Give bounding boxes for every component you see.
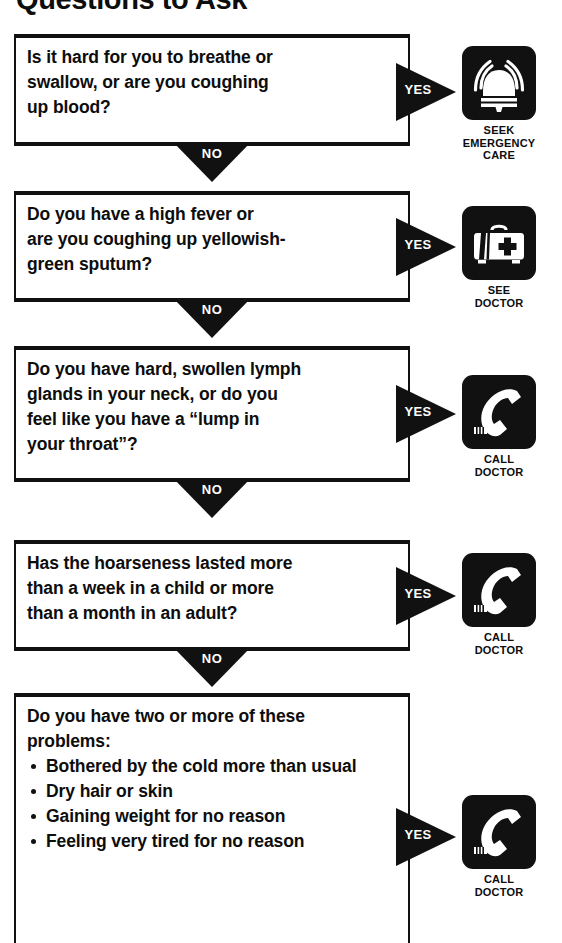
outcome-caption: SEE DOCTOR [443, 284, 555, 309]
question-text-3: Do you have hard, swollen lymph glands i… [16, 350, 408, 463]
box-top-rule [14, 693, 410, 697]
question-line: glands in your neck, or do you [27, 382, 396, 407]
yes-label: YES [398, 587, 438, 601]
question-line: green sputum? [27, 252, 396, 277]
caption-line: CALL [443, 453, 555, 466]
question-text-5: Do you have two or more of these problem… [16, 697, 408, 860]
no-label: NO [173, 302, 251, 317]
question-line: Do you have hard, swollen lymph [27, 357, 396, 382]
question-box-1: Is it hard for you to breathe or swallow… [14, 38, 410, 142]
yes-label: YES [398, 828, 438, 842]
no-arrow-2[interactable]: NO [173, 298, 251, 338]
problem-list: Bothered by the cold more than usual Dry… [27, 754, 396, 854]
question-line: up blood? [27, 95, 396, 120]
question-box-4: Has the hoarseness lasted more than a we… [14, 544, 410, 647]
bullet-dot-icon [31, 789, 36, 794]
question-box-5: Do you have two or more of these problem… [14, 697, 410, 943]
no-label: NO [173, 651, 251, 666]
question-box-2: Do you have a high fever or are you coug… [14, 195, 410, 298]
list-item: Feeling very tired for no reason [27, 829, 396, 854]
question-line: than a week in a child or more [27, 576, 396, 601]
list-item: Gaining weight for no reason [27, 804, 396, 829]
bullet-dot-icon [31, 814, 36, 819]
no-label: NO [173, 482, 251, 497]
list-item-label: Dry hair or skin [46, 781, 173, 801]
list-item: Dry hair or skin [27, 779, 396, 804]
outcome-caption: CALL DOCTOR [443, 631, 555, 656]
question-text-1: Is it hard for you to breathe or swallow… [16, 38, 408, 126]
question-line: than a month in an adult? [27, 601, 396, 626]
caption-line: EMERGENCY [443, 137, 555, 150]
no-arrow-4[interactable]: NO [173, 647, 251, 687]
caption-line: CALL [443, 631, 555, 644]
alarm-bell-icon [462, 46, 536, 120]
telephone-icon [462, 553, 536, 627]
list-item-label: Feeling very tired for no reason [46, 831, 304, 851]
outcome-seek-emergency-care[interactable]: SEEK EMERGENCY CARE [443, 46, 555, 162]
outcome-caption: CALL DOCTOR [443, 873, 555, 898]
box-top-rule [14, 191, 410, 195]
list-item: Bothered by the cold more than usual [27, 754, 396, 779]
box-top-rule [14, 346, 410, 350]
question-line: are you coughing up yellowish- [27, 227, 396, 252]
yes-label: YES [398, 405, 438, 419]
caption-line: CALL [443, 873, 555, 886]
outcome-caption: CALL DOCTOR [443, 453, 555, 478]
caption-line: SEEK [443, 124, 555, 137]
box-top-rule [14, 540, 410, 544]
question-line: Do you have a high fever or [27, 202, 396, 227]
caption-line: DOCTOR [443, 466, 555, 479]
medical-bag-icon [462, 206, 536, 280]
question-line: swallow, or are you coughing [27, 70, 396, 95]
list-item-label: Bothered by the cold more than usual [46, 756, 356, 776]
outcome-call-doctor-1[interactable]: CALL DOCTOR [443, 375, 555, 478]
list-item-label: Gaining weight for no reason [46, 806, 285, 826]
telephone-icon [462, 795, 536, 869]
question-text-2: Do you have a high fever or are you coug… [16, 195, 408, 283]
question-line: feel like you have a “lump in [27, 407, 396, 432]
bullet-dot-icon [31, 839, 36, 844]
outcome-call-doctor-3[interactable]: CALL DOCTOR [443, 795, 555, 898]
caption-line: CARE [443, 149, 555, 162]
outcome-call-doctor-2[interactable]: CALL DOCTOR [443, 553, 555, 656]
yes-label: YES [398, 238, 438, 252]
caption-line: SEE [443, 284, 555, 297]
question-line: Do you have two or more of these [27, 704, 396, 729]
caption-line: DOCTOR [443, 886, 555, 899]
question-line: Is it hard for you to breathe or [27, 45, 396, 70]
outcome-caption: SEEK EMERGENCY CARE [443, 124, 555, 162]
telephone-icon [462, 375, 536, 449]
caption-line: DOCTOR [443, 297, 555, 310]
outcome-see-doctor[interactable]: SEE DOCTOR [443, 206, 555, 309]
question-line: problems: [27, 729, 396, 754]
yes-label: YES [398, 83, 438, 97]
question-box-3: Do you have hard, swollen lymph glands i… [14, 350, 410, 478]
box-top-rule [14, 34, 410, 38]
question-line: your throat”? [27, 432, 396, 457]
question-line: Has the hoarseness lasted more [27, 551, 396, 576]
bullet-dot-icon [31, 764, 36, 769]
flowchart: Is it hard for you to breathe or swallow… [0, 0, 562, 943]
no-arrow-1[interactable]: NO [173, 142, 251, 182]
no-label: NO [173, 146, 251, 161]
caption-line: DOCTOR [443, 644, 555, 657]
no-arrow-3[interactable]: NO [173, 478, 251, 518]
question-text-4: Has the hoarseness lasted more than a we… [16, 544, 408, 632]
